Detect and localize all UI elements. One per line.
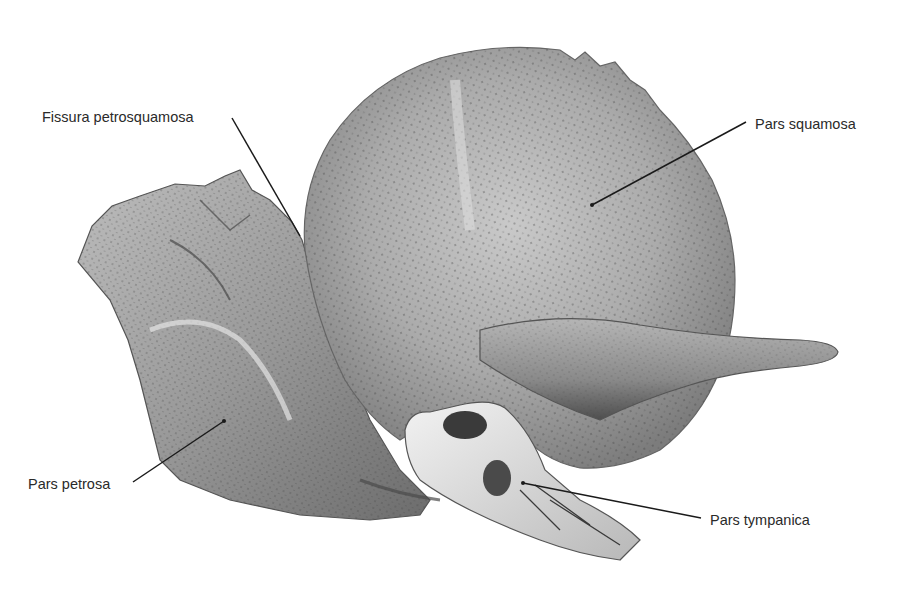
pointer-dot — [590, 203, 594, 207]
label-pars-tympanica: Pars tympanica — [710, 513, 810, 528]
pointer-dot — [222, 419, 226, 423]
external-acoustic-meatus — [443, 411, 487, 439]
label-pars-petrosa: Pars petrosa — [28, 477, 110, 492]
label-pars-squamosa: Pars squamosa — [755, 117, 856, 132]
pars-squamosa-region — [304, 47, 735, 468]
label-fissura-petrosquamosa: Fissura petrosquamosa — [42, 110, 194, 125]
pointer-dot — [521, 481, 525, 485]
fossa — [483, 460, 511, 496]
